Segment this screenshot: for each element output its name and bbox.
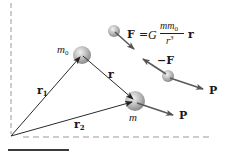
label-r: r [108, 69, 114, 80]
force-P-upper-arrow [170, 78, 203, 89]
force-P-lower-arrow [137, 103, 173, 115]
label-m: m [129, 112, 137, 123]
label-m0: m0 [57, 44, 68, 55]
formula-G: G [148, 29, 157, 41]
formula-denominator: r3 [166, 36, 173, 46]
formula-vector-r: r [188, 29, 194, 40]
label-P-lower: P [179, 110, 187, 121]
label-r2: r2 [74, 119, 85, 130]
formula-equals: = [139, 29, 148, 40]
label-r1: r1 [37, 85, 48, 96]
vector-r2 [11, 102, 132, 136]
formula-numerator: mm0 [160, 21, 178, 31]
formula-F: F [127, 29, 135, 40]
sphere-m [125, 91, 145, 111]
gravitation-diagram: m0 r r1 r2 m −F P P F = G mm0 r3 r [0, 0, 227, 152]
label-neg-F: −F [157, 55, 174, 66]
label-P-upper: P [209, 85, 217, 96]
